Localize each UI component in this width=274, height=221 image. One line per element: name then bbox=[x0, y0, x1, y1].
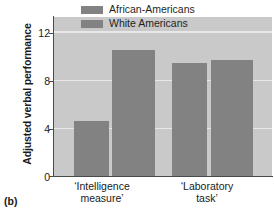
x-category-label-line2: measure’ bbox=[56, 192, 148, 204]
x-category-label-intelligence-measure: ‘Intelligence measure’ bbox=[56, 180, 148, 204]
legend-item-african-americans: African-Americans bbox=[81, 3, 216, 16]
legend-swatch-icon-white-americans bbox=[81, 20, 103, 28]
legend-item-white-americans: White Americans bbox=[81, 17, 216, 30]
legend: African-Americans White Americans bbox=[81, 3, 216, 31]
x-category-label-line1: ‘Intelligence bbox=[56, 180, 148, 192]
plot-area bbox=[54, 17, 272, 176]
bar-white-americans-intelligence-measure bbox=[112, 50, 155, 176]
y-tick-label-12: 12 bbox=[28, 28, 50, 38]
legend-swatch-icon-african-americans bbox=[81, 6, 103, 14]
bar-african-americans-intelligence-measure bbox=[74, 121, 109, 176]
panel-tag: (b) bbox=[4, 195, 17, 207]
x-category-label-line2: task’ bbox=[163, 192, 251, 204]
bar-white-americans-laboratory-task bbox=[211, 60, 253, 176]
y-tick-label-8: 8 bbox=[28, 76, 50, 86]
legend-label-white-americans: White Americans bbox=[109, 18, 188, 29]
x-category-label-laboratory-task: ‘Laboratory task’ bbox=[163, 180, 251, 204]
gridline-12 bbox=[54, 31, 272, 33]
x-axis-line bbox=[53, 176, 273, 177]
y-tick-label-0: 0 bbox=[28, 172, 50, 182]
bar-african-americans-laboratory-task bbox=[172, 63, 207, 176]
y-tick-label-4: 4 bbox=[28, 124, 50, 134]
x-category-label-line1: ‘Laboratory bbox=[163, 180, 251, 192]
legend-label-african-americans: African-Americans bbox=[109, 4, 195, 15]
y-axis-tick-labels: 12 8 4 0 bbox=[26, 0, 50, 221]
figure-panel-b: Adjusted verbal performance 12 8 4 0 Afr… bbox=[0, 0, 274, 221]
